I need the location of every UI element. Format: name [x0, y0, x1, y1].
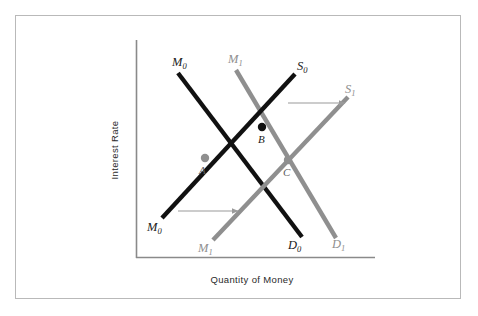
y-axis-title: Interest Rate [109, 121, 120, 180]
equilibrium-point-b [258, 123, 266, 131]
point-label-b: B [258, 133, 265, 145]
curve-label-d1: D1 [331, 237, 345, 253]
equilibrium-point-a [201, 154, 209, 162]
curve-label-m1-top: M1 [227, 52, 243, 68]
axes-group [136, 40, 375, 258]
curve-m1-supply [213, 97, 348, 240]
money-market-diagram: A B C M0 M1 S0 S1 M0 M1 D0 D1 Intere [0, 0, 478, 316]
curve-label-s1: S1 [345, 82, 356, 98]
curve-label-m1-bottom: M1 [197, 241, 213, 257]
curve-label-d0: D0 [287, 238, 302, 254]
point-label-a: A [198, 164, 206, 176]
point-label-c: C [283, 166, 291, 178]
curve-label-s0: S0 [297, 59, 308, 75]
figure-page: A B C M0 M1 S0 S1 M0 M1 D0 D1 Intere [0, 0, 478, 316]
curve-label-m0-top: M0 [171, 55, 187, 71]
x-axis-title: Quantity of Money [210, 274, 293, 285]
equilibrium-point-c [284, 156, 292, 164]
curve-label-m0-bottom: M0 [146, 220, 162, 236]
curve-m0-supply [162, 74, 295, 218]
